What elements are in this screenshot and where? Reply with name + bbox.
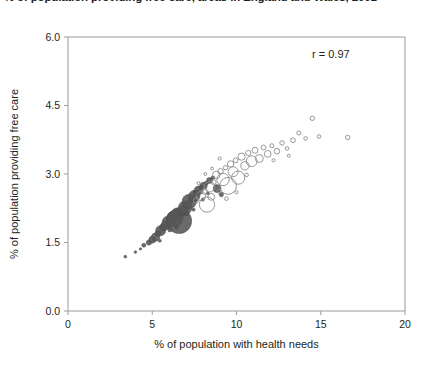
data-point-open-21 xyxy=(252,147,258,153)
correlation-annotation: r = 0.97 xyxy=(312,48,350,60)
data-point-filled-0 xyxy=(124,255,127,258)
data-point-filled-37 xyxy=(158,239,161,242)
data-point-open-41 xyxy=(204,173,207,176)
data-point-open-33 xyxy=(317,135,321,139)
data-point-open-38 xyxy=(245,173,249,177)
data-point-filled-31 xyxy=(168,228,172,232)
data-point-open-15 xyxy=(233,158,238,163)
data-point-open-25 xyxy=(270,144,274,148)
x-tick-label-3: 15 xyxy=(315,318,327,330)
data-point-open-3 xyxy=(199,197,214,212)
data-point-filled-2 xyxy=(142,243,146,247)
data-point-open-43 xyxy=(197,182,200,185)
x-tick-label-0: 0 xyxy=(65,318,71,330)
data-point-open-26 xyxy=(274,148,280,154)
chart-canvas: 0.01.53.04.56.005101520% of population w… xyxy=(0,0,430,369)
y-tick-label-3: 4.5 xyxy=(45,99,60,111)
data-point-open-23 xyxy=(261,145,266,150)
data-point-open-30 xyxy=(297,131,301,135)
data-point-open-11 xyxy=(223,165,227,169)
y-axis-title: % of population providing free care xyxy=(8,89,20,259)
data-point-filled-32 xyxy=(175,226,179,230)
x-tick-label-4: 20 xyxy=(399,318,411,330)
data-point-open-29 xyxy=(291,138,296,143)
x-axis-title: % of population with health needs xyxy=(154,338,319,350)
data-point-open-24 xyxy=(264,151,271,158)
scatter-chart: 0.01.53.04.56.005101520% of population w… xyxy=(0,0,430,369)
data-point-open-27 xyxy=(280,141,284,145)
data-point-open-17 xyxy=(238,153,245,160)
data-point-open-40 xyxy=(287,154,290,157)
data-point-filled-33 xyxy=(185,212,189,216)
data-point-open-36 xyxy=(225,197,229,201)
y-tick-label-4: 6.0 xyxy=(45,31,60,43)
data-point-open-18 xyxy=(241,162,249,170)
data-point-open-39 xyxy=(272,159,275,162)
data-point-open-13 xyxy=(227,161,233,167)
data-point-open-37 xyxy=(235,191,238,194)
data-point-open-19 xyxy=(246,150,251,155)
x-tick-label-1: 5 xyxy=(149,318,155,330)
data-point-open-28 xyxy=(285,147,289,151)
data-point-open-31 xyxy=(304,137,308,141)
data-point-open-14 xyxy=(228,167,238,177)
data-point-filled-38 xyxy=(139,248,141,250)
x-tick-label-2: 10 xyxy=(231,318,243,330)
y-tick-label-0: 0.0 xyxy=(45,305,60,317)
y-tick-label-2: 3.0 xyxy=(45,168,60,180)
data-point-filled-1 xyxy=(134,251,137,254)
data-point-filled-34 xyxy=(192,208,195,211)
data-point-open-32 xyxy=(310,116,314,120)
y-tick-label-1: 1.5 xyxy=(45,236,60,248)
data-point-open-34 xyxy=(346,135,350,139)
data-point-open-42 xyxy=(211,167,214,170)
data-point-open-35 xyxy=(218,157,221,160)
